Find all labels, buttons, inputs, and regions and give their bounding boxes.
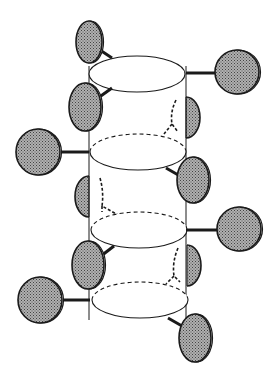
disc-back-arc	[91, 212, 187, 230]
sphere-body	[76, 21, 102, 63]
sphere-far-left-2	[18, 277, 64, 323]
sphere-far-left-1	[16, 129, 62, 175]
sphere-mid-left-2	[72, 241, 106, 289]
disc-back-arc	[90, 134, 186, 152]
sphere-body	[18, 277, 62, 323]
helix-diagram	[0, 0, 276, 377]
disc-back-arc	[92, 282, 188, 300]
sphere-bottom-right-bond	[168, 318, 182, 326]
hidden-bond-3	[166, 248, 180, 284]
sphere-body	[179, 314, 211, 362]
sphere-body	[215, 50, 259, 94]
half-sphere-left-1	[75, 176, 89, 217]
sphere-top-left	[76, 21, 104, 63]
disc-1	[89, 56, 185, 92]
disc-back-arc	[89, 56, 185, 74]
disc-4	[92, 282, 188, 318]
sphere-top-right	[215, 50, 261, 94]
disc-3	[91, 212, 187, 248]
sphere-body	[16, 129, 60, 175]
hidden-bond-1	[164, 100, 178, 134]
half-sphere-right-2	[187, 245, 201, 286]
sphere-lower-right-1	[177, 157, 211, 203]
sphere-body	[69, 83, 101, 131]
sphere-body	[217, 207, 261, 251]
disc-front-arc	[90, 152, 186, 170]
sphere-body	[72, 241, 104, 289]
hidden-bond-2	[100, 178, 118, 215]
disc-front-arc	[92, 300, 188, 318]
disc-front-arc	[89, 74, 185, 92]
sphere-right-2	[217, 207, 263, 251]
hidden-bonds	[100, 100, 180, 284]
sphere-mid-left-1	[69, 83, 103, 131]
disc-front-arc	[91, 230, 187, 248]
half-sphere-right-1	[186, 97, 200, 138]
sphere-body	[177, 157, 209, 203]
disc-2	[90, 134, 186, 170]
sphere-bottom-right	[179, 314, 213, 362]
